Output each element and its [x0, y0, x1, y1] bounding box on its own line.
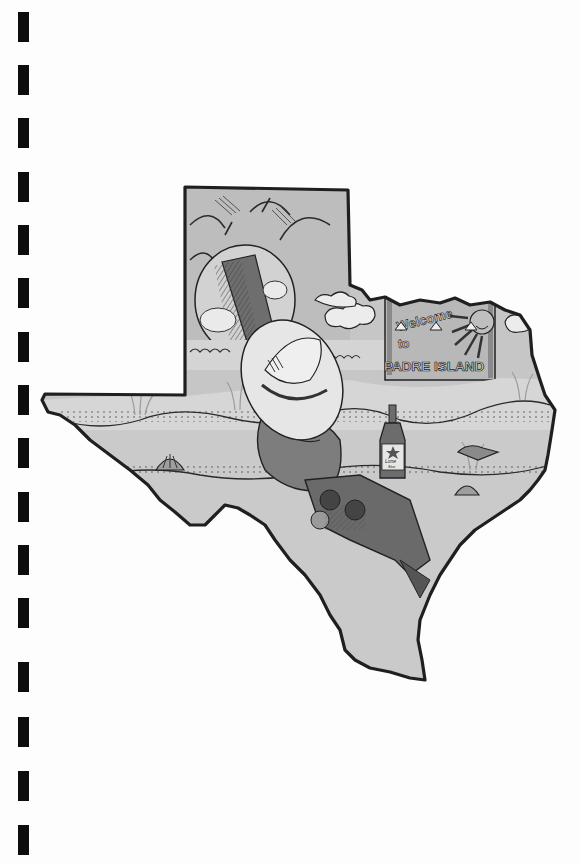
sign-text-to: to	[398, 337, 409, 351]
padre-island-sign: Welcome to PADRE ISLAND	[384, 295, 495, 380]
printed-page: Welcome to PADRE ISLAND	[0, 0, 580, 863]
bottle-label-star: Star	[388, 464, 396, 469]
texas-illustration: Welcome to PADRE ISLAND	[0, 0, 580, 863]
sign-text-padre-island: PADRE ISLAND	[384, 359, 485, 374]
